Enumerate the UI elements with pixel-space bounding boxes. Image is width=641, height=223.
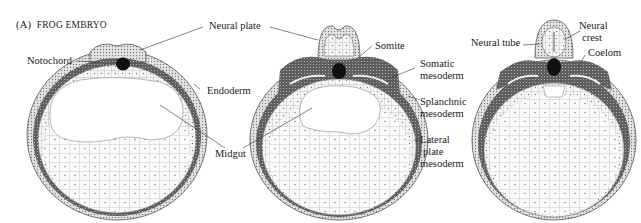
- label-neural-crest-line2: crest: [582, 32, 602, 43]
- embryo-stage-2: [250, 26, 428, 220]
- label-neural-tube: Neural tube: [471, 37, 520, 48]
- label-lateral-plate-line2: plate: [423, 146, 443, 157]
- panel-title-text: FROG EMBRYO: [37, 20, 107, 30]
- label-endoderm: Endoderm: [207, 85, 251, 96]
- label-splanchnic-mesoderm-line2: mesoderm: [420, 108, 464, 119]
- label-lateral-plate-line3: mesoderm: [420, 158, 464, 169]
- label-somite: Somite: [375, 40, 405, 51]
- label-somatic-mesoderm-line2: mesoderm: [420, 70, 464, 81]
- label-notochord: Notochord: [27, 55, 72, 66]
- label-midgut: Midgut: [215, 148, 246, 159]
- frog-embryo-diagram: [0, 0, 641, 223]
- label-splanchnic-mesoderm-line1: Splanchnic: [420, 96, 467, 107]
- label-coelom: Coelom: [588, 47, 621, 58]
- label-somatic-mesoderm-line1: Somatic: [420, 58, 454, 69]
- embryo-stage-1: [27, 44, 207, 220]
- panel-label: (A): [16, 19, 31, 30]
- label-neural-crest-line1: Neural: [579, 20, 608, 31]
- label-neural-plate: Neural plate: [209, 20, 261, 31]
- label-lateral-plate-line1: Lateral: [420, 134, 450, 145]
- panel-title: (A) FROG EMBRYO: [16, 19, 107, 30]
